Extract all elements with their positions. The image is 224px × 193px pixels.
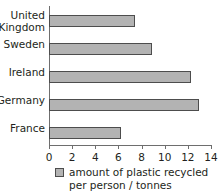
x-tick-label: 14 — [196, 151, 224, 163]
x-tick-mark — [188, 145, 189, 149]
bar-sweden — [49, 43, 152, 55]
bar-france — [49, 127, 121, 139]
category-label-germany: Germany — [0, 95, 45, 107]
x-tick-mark — [211, 145, 212, 149]
x-tick-mark — [118, 145, 119, 149]
x-tick-mark — [49, 145, 50, 149]
x-tick-mark — [95, 145, 96, 149]
x-tick-mark — [72, 145, 73, 149]
bar-ireland — [49, 71, 191, 83]
legend-swatch-icon — [55, 168, 64, 177]
category-label-france: France — [0, 123, 45, 135]
plot-area: 0 2 4 6 8 10 12 14 — [49, 6, 211, 145]
category-label-united-kingdom: United Kingdom — [0, 10, 45, 33]
bar-germany — [49, 99, 199, 111]
category-label-sweden: Sweden — [0, 39, 45, 51]
x-tick-mark — [165, 145, 166, 149]
category-label-ireland: Ireland — [0, 67, 45, 79]
chart-legend: amount of plastic recycled per person / … — [55, 166, 219, 191]
bar-chart: United Kingdom Sweden Ireland Germany Fr… — [0, 0, 224, 193]
x-tick-mark — [142, 145, 143, 149]
legend-label: amount of plastic recycled per person / … — [69, 166, 219, 191]
bar-united-kingdom — [49, 15, 135, 27]
